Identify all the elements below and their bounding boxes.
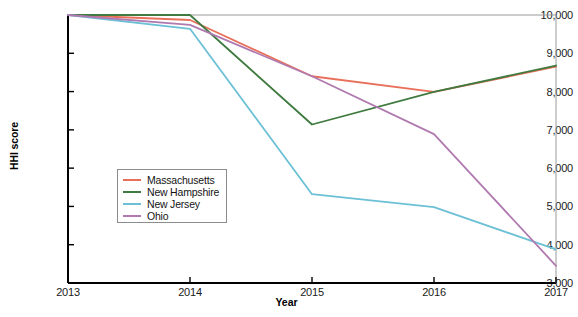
legend-item-massachusetts[interactable]: Massachusetts — [123, 174, 222, 186]
legend-swatch-massachusetts — [123, 179, 141, 181]
legend-label-massachusetts: Massachusetts — [147, 174, 214, 186]
legend-label-new-jersey: New Jersey — [147, 198, 200, 210]
legend-swatch-ohio — [123, 215, 141, 217]
legend-label-new-hampshire: New Hampshire — [147, 186, 219, 198]
legend-item-new-hampshire[interactable]: New Hampshire — [123, 186, 222, 198]
axes-group — [68, 15, 556, 283]
legend: Massachusetts New Hampshire New Jersey O… — [117, 169, 227, 223]
legend-item-ohio[interactable]: Ohio — [123, 210, 222, 222]
legend-item-new-jersey[interactable]: New Jersey — [123, 198, 222, 210]
legend-swatch-new-jersey — [123, 203, 141, 205]
legend-label-ohio: Ohio — [147, 210, 168, 222]
legend-swatch-new-hampshire — [123, 191, 141, 193]
series-lines-group — [68, 15, 556, 266]
